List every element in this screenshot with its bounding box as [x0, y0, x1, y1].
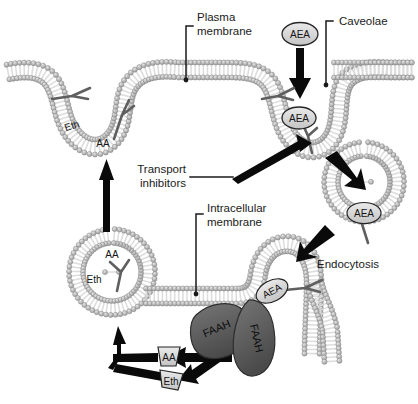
aea-vesicle-label: AEA: [354, 208, 374, 219]
caveolae-leader-dot: [324, 83, 329, 88]
endocytosis-label: Endocytosis: [317, 258, 379, 270]
annotation-group: Plasma membrane Caveolae Transport inhib…: [137, 11, 387, 296]
vesicle-to-plasma-arrow: [99, 159, 114, 232]
intracellular-membrane-label-line2: membrane: [207, 216, 262, 228]
aea-vesicle-badge: AEA: [347, 203, 381, 224]
caveolae-leader: [326, 21, 333, 85]
plasma-membrane-leader-dot: [184, 78, 189, 83]
plasma-membrane-label-line1: Plasma: [197, 11, 236, 23]
aea-extracellular-badge: AEA: [282, 23, 318, 46]
aa-product-label: AA: [162, 352, 176, 363]
aa-vesicle-label: AA: [105, 249, 119, 260]
aa-plasma-label: AA: [96, 138, 110, 149]
transport-inhibitors-label-line2: inhibitors: [140, 177, 186, 189]
transport-inhibitors-arrowhead: [232, 140, 306, 184]
intracellular-membrane-leader-dot: [194, 292, 199, 297]
transport-inhibitors-label-line1: Transport: [137, 163, 187, 175]
aea-uptake-arrow: [289, 48, 311, 99]
intracellular-membrane-label-line1: Intracellular: [207, 202, 267, 214]
eth-product-badge: Eth: [160, 370, 183, 390]
diagram-svg: FAAH FAAH AEA AEA AEA AEA Eth AA AA: [0, 0, 418, 404]
eth-vesicle-label: Eth: [86, 274, 101, 285]
intracellular-membrane-leader: [196, 214, 203, 294]
caveolae-label: Caveolae: [339, 15, 388, 27]
eth-product-label: Eth: [163, 376, 178, 387]
plasma-membrane-label-line2: membrane: [197, 25, 252, 37]
converge-to-vesicle-arrow: [108, 326, 126, 370]
aea-membrane-label: AEA: [289, 113, 309, 124]
aea-membrane-badge: AEA: [282, 107, 316, 129]
aa-product-badge: AA: [158, 347, 180, 366]
figure-canvas: FAAH FAAH AEA AEA AEA AEA Eth AA AA: [0, 0, 418, 404]
aea-extracellular-label: AEA: [290, 29, 310, 40]
